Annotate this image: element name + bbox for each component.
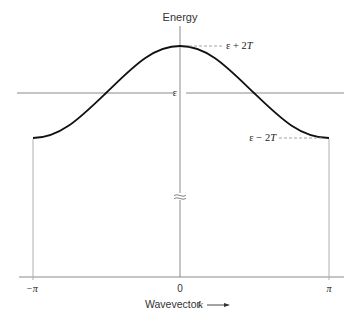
- dispersion-curve: [33, 46, 329, 138]
- epsilon-label: ε: [173, 87, 177, 98]
- y-axis-label: Energy: [163, 11, 198, 23]
- x-tick-pi: π: [326, 283, 332, 294]
- energy-band-diagram: Energy ε ε + 2T ε − 2T −π 0 π Wavevector…: [0, 0, 353, 322]
- top-level-label: ε + 2T: [226, 40, 254, 51]
- right-arrow-icon: [207, 303, 230, 307]
- axis-break-icon: [174, 193, 186, 200]
- bottom-level-label: ε − 2T: [249, 132, 277, 143]
- x-axis-symbol: k: [198, 298, 204, 310]
- x-tick-minus-pi: −π: [26, 283, 39, 294]
- x-tick-zero: 0: [177, 283, 183, 294]
- x-axis-label: Wavevector: [145, 298, 201, 310]
